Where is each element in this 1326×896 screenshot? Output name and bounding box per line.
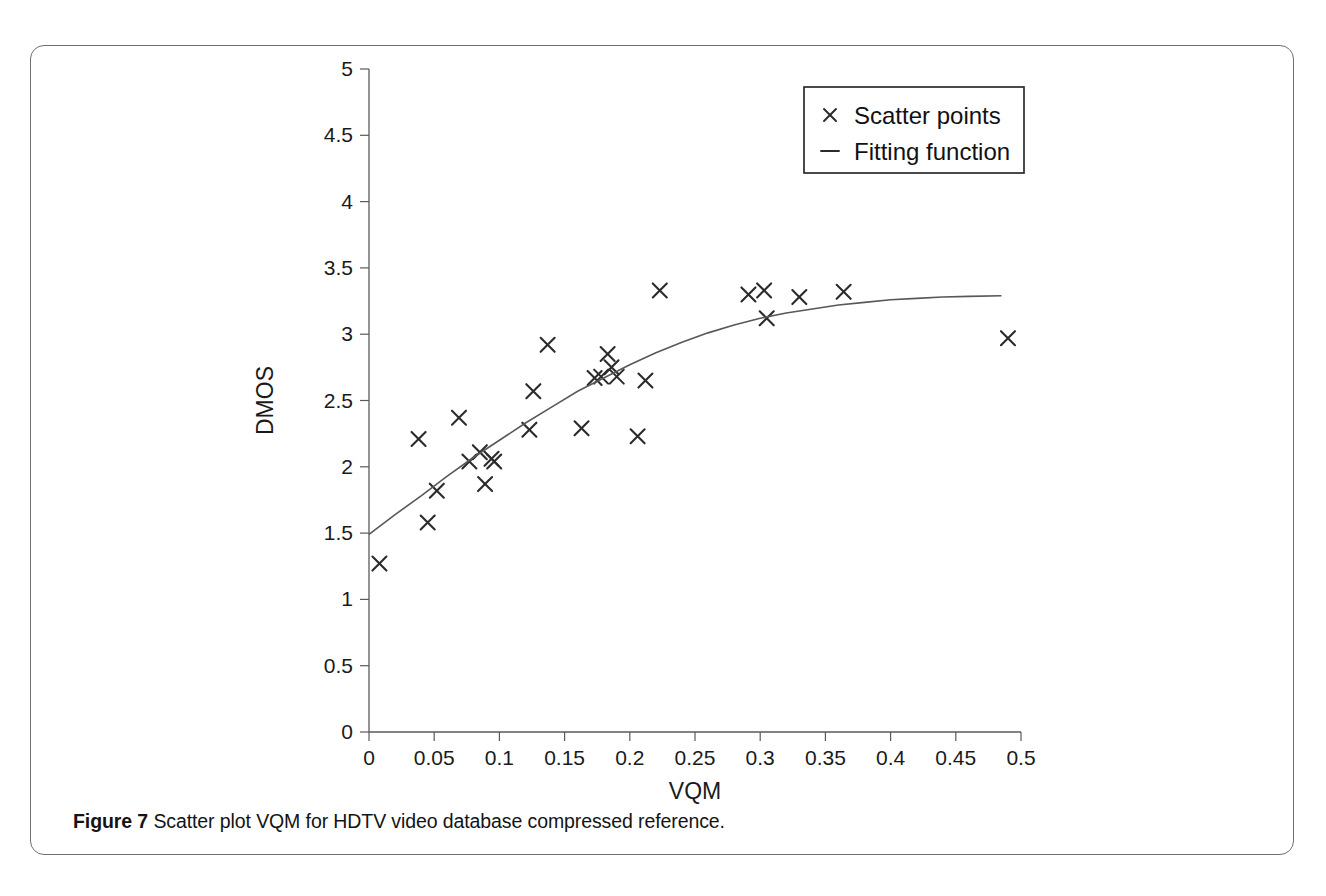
scatter-point	[741, 287, 755, 301]
x-tick-label: 0.35	[805, 746, 846, 769]
scatter-point	[526, 384, 540, 398]
figure-caption-text: Scatter plot VQM for HDTV video database…	[153, 810, 724, 832]
scatter-point	[757, 283, 771, 297]
y-tick-label: 4	[341, 190, 353, 213]
y-tick-label: 1	[341, 587, 353, 610]
figure-caption-label: Figure 7	[73, 810, 148, 832]
scatter-point	[541, 338, 555, 352]
x-tick-label: 0.1	[485, 746, 514, 769]
scatter-point	[412, 432, 426, 446]
scatter-point	[430, 484, 444, 498]
scatter-point	[792, 290, 806, 304]
scatter-point	[653, 283, 667, 297]
x-axis-title: VQM	[669, 778, 721, 804]
scatter-point	[522, 423, 536, 437]
scatter-point	[372, 557, 386, 571]
scatter-point	[1001, 331, 1015, 345]
plot-region: 00.050.10.150.20.250.30.350.40.450.5VQM0…	[31, 46, 1295, 806]
x-tick-label: 0.2	[615, 746, 644, 769]
scatter-point	[837, 285, 851, 299]
y-tick-label: 4.5	[324, 123, 353, 146]
scatter-point	[452, 411, 466, 425]
y-axis-ticks: 00.511.522.533.544.55DMOS	[252, 57, 369, 743]
x-tick-label: 0.15	[544, 746, 585, 769]
figure-card: 00.050.10.150.20.250.30.350.40.450.5VQM0…	[30, 45, 1294, 855]
y-tick-label: 3.5	[324, 256, 353, 279]
x-axis-ticks: 00.050.10.150.20.250.30.350.40.450.5VQM	[363, 732, 1035, 804]
y-tick-label: 1.5	[324, 521, 353, 544]
scatter-point	[638, 374, 652, 388]
x-tick-label: 0.3	[746, 746, 775, 769]
y-tick-label: 2.5	[324, 389, 353, 412]
fitting-function-curve	[369, 296, 1001, 535]
y-tick-label: 0	[341, 720, 353, 743]
scatter-plot-chart: 00.050.10.150.20.250.30.350.40.450.5VQM0…	[31, 46, 1295, 806]
y-tick-label: 2	[341, 455, 353, 478]
y-axis-title: DMOS	[252, 366, 278, 435]
scatter-point	[601, 347, 615, 361]
y-tick-label: 3	[341, 322, 353, 345]
figure-caption: Figure 7 Scatter plot VQM for HDTV video…	[73, 808, 1253, 834]
y-tick-label: 0.5	[324, 654, 353, 677]
y-tick-label: 5	[341, 57, 353, 80]
scatter-points-group	[372, 283, 1015, 570]
x-tick-label: 0.05	[414, 746, 455, 769]
scatter-point	[478, 477, 492, 491]
x-tick-label: 0.25	[675, 746, 716, 769]
scatter-point	[575, 421, 589, 435]
legend-item-label: Scatter points	[854, 102, 1001, 129]
chart-legend: Scatter pointsFitting function	[804, 87, 1024, 173]
scatter-point	[631, 429, 645, 443]
scatter-point	[421, 515, 435, 529]
x-tick-label: 0	[363, 746, 375, 769]
legend-item-label: Fitting function	[854, 138, 1010, 165]
x-tick-label: 0.5	[1006, 746, 1035, 769]
x-tick-label: 0.45	[935, 746, 976, 769]
x-tick-label: 0.4	[876, 746, 906, 769]
